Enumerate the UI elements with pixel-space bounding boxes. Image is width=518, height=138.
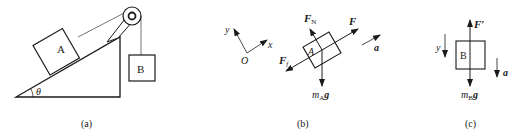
- figure-a: A B θ (a): [16, 7, 155, 130]
- force-tension-label: F′: [473, 18, 484, 30]
- axis-x-label: x: [267, 39, 273, 50]
- weight-label-c: mBg: [461, 89, 478, 102]
- axis-y-label: y: [224, 24, 230, 35]
- weight-label: mAg: [312, 89, 329, 102]
- force-friction-label: Ff: [278, 54, 289, 68]
- physics-diagram: A B θ (a) y x O A: [0, 0, 518, 138]
- block-b-label: B: [137, 63, 144, 75]
- caption-a: (a): [81, 118, 92, 130]
- axis-x: [247, 40, 267, 53]
- angle-theta: θ: [36, 86, 41, 97]
- force-normal-label: FN: [303, 12, 316, 26]
- block-a-label: A: [57, 43, 65, 55]
- figure-b: y x O A FN F Ff mAg a (b): [224, 12, 380, 130]
- fbd-block-b-label: B: [460, 50, 467, 61]
- angle-arc: [31, 89, 33, 97]
- accel-label-b: a: [374, 42, 379, 53]
- figure-c: y B F′ mBg a (c): [435, 18, 508, 130]
- axis-y-c-label: y: [435, 42, 441, 53]
- accel-label-c: a: [503, 67, 508, 78]
- origin-label: O: [241, 55, 248, 66]
- axis-y: [234, 29, 247, 53]
- caption-c: (c): [465, 118, 476, 130]
- caption-b: (b): [297, 118, 309, 130]
- force-f-label: F: [348, 15, 357, 27]
- pulley-axle: [129, 13, 136, 20]
